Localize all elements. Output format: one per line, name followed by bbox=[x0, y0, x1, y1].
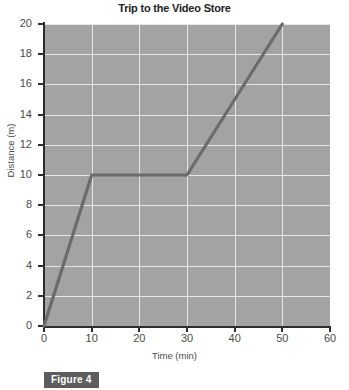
figure-container: Trip to the Video Store 0246810121416182… bbox=[0, 0, 349, 390]
data-line-trip bbox=[44, 24, 282, 326]
figure-caption: Figure 4 bbox=[44, 372, 99, 388]
data-series-layer bbox=[0, 0, 349, 390]
